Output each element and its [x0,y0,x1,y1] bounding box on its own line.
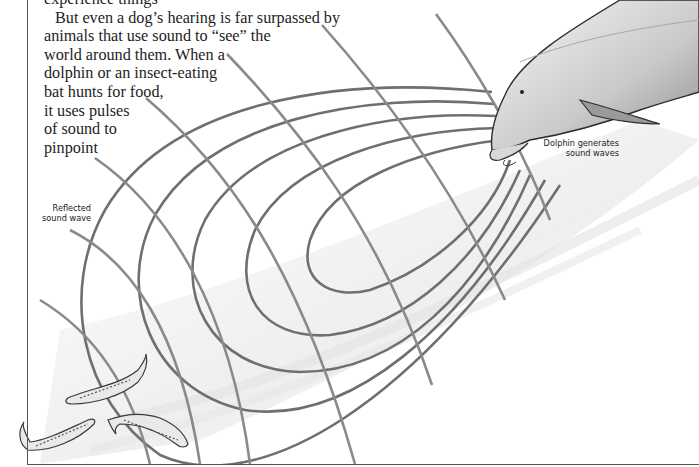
body-text-line: animals that use sound to “see” the [44,27,340,46]
caption-line: sound waves [544,148,619,158]
body-text-line: dolphin or an insect-eating [44,64,340,83]
body-text-line: of sound to [44,120,340,139]
body-text-cut-off-line: experience things [44,0,340,9]
caption-reflected-sound-wave: Reflected sound wave [42,203,91,223]
caption-line: Reflected [42,203,91,213]
body-text-line: it uses pulses [44,102,340,121]
caption-dolphin-generates-sound-waves: Dolphin generates sound waves [544,138,619,158]
body-text-line: pinpoint [44,139,340,158]
caption-line: Dolphin generates [544,138,619,148]
caption-line: sound wave [42,213,91,223]
body-text-line: bat hunts for food, [44,83,340,102]
body-text-line: world around them. When a [44,46,340,65]
book-page: experience things But even a dog’s heari… [0,0,699,467]
page-border-left [27,0,28,465]
body-text: experience things But even a dog’s heari… [44,0,340,157]
body-text-line: But even a dog’s hearing is far surpasse… [44,9,340,28]
page-border-bottom [27,464,699,465]
